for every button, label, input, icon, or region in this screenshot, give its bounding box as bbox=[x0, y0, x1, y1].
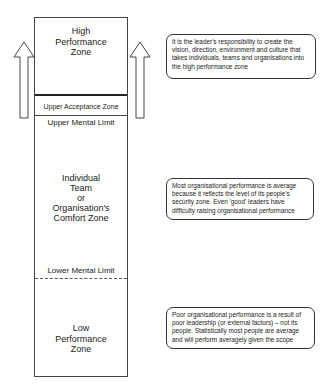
low-performance-zone-label: Low Performance Zone bbox=[35, 323, 127, 355]
comfort-zone-line-1: Individual bbox=[35, 173, 127, 184]
lower-mental-limit-label: Lower Mental Limit bbox=[35, 266, 127, 277]
comfort-zone-line-2: Team bbox=[35, 183, 127, 194]
upper-mental-limit-label: Upper Mental Limit bbox=[35, 118, 127, 129]
comfort-zone-line-4: Organisation's bbox=[35, 203, 127, 214]
up-arrow-right-icon bbox=[129, 41, 151, 119]
lower-mental-limit-line bbox=[35, 278, 127, 279]
up-arrow-left-icon bbox=[13, 41, 35, 119]
upper-acceptance-zone-label: Upper Acceptance Zone bbox=[35, 102, 127, 113]
upper-mental-limit-line bbox=[35, 115, 127, 116]
comfort-zone-line-5: Comfort Zone bbox=[35, 213, 127, 224]
note-leader-responsibility: It is the leader's responsibility to cre… bbox=[166, 34, 316, 79]
performance-zone-column: High Performance Zone Upper Acceptance Z… bbox=[34, 17, 128, 377]
note-poor-performance: Poor organisational performance is a res… bbox=[166, 307, 315, 349]
high-performance-zone-label: High Performance Zone bbox=[35, 26, 127, 58]
upper-acceptance-top-line bbox=[35, 94, 127, 96]
comfort-zone-line-3: or bbox=[35, 193, 127, 204]
note-average-performance: Most organisational performance is avera… bbox=[166, 178, 314, 220]
